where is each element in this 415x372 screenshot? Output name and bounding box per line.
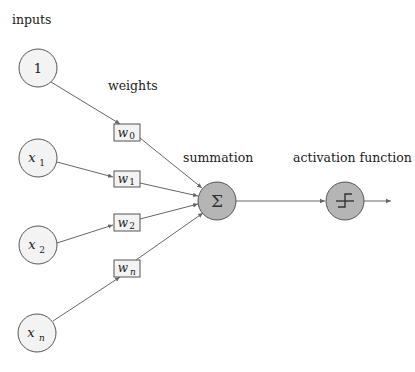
input-node-bias: 1 (19, 49, 57, 87)
weight-w0-subscript: 0 (129, 131, 135, 141)
input-x1-subscript: 1 (39, 158, 45, 168)
weight-wn-label: w (118, 261, 129, 275)
edge-x2-w2 (57, 225, 113, 243)
input-xn-subscript: n (39, 333, 45, 343)
activation-node (326, 182, 364, 220)
input-xn-label: x (27, 325, 35, 340)
perceptron-diagram: inputs weights summation activation func… (0, 0, 415, 372)
input-node-x1: x 1 (19, 139, 57, 177)
sigma-icon: Σ (211, 191, 223, 211)
input-node-x2: x 2 (19, 226, 57, 264)
weight-w1-subscript: 1 (129, 177, 135, 187)
edge-xn-wn (53, 277, 120, 321)
weight-box-w2: w 2 (114, 214, 140, 231)
edge-x1-w1 (57, 162, 113, 177)
weight-box-wn: w n (114, 260, 140, 277)
input-x2-subscript: 2 (39, 245, 45, 255)
activation-heading: activation function (293, 150, 412, 165)
weight-wn-subscript: n (130, 267, 136, 277)
weight-w2-subscript: 2 (129, 221, 135, 231)
input-x1-label: x (28, 150, 36, 165)
weights-heading: weights (108, 78, 158, 93)
weight-box-w0: w 0 (114, 124, 140, 141)
edge-w2-sum (140, 204, 198, 219)
weight-w0-label: w (118, 126, 129, 140)
summation-node: Σ (198, 182, 236, 220)
inputs-heading: inputs (12, 12, 52, 27)
edge-wn-sum (136, 213, 203, 260)
weight-w1-label: w (118, 172, 129, 186)
edge-w1-sum (140, 183, 198, 196)
input-node-xn: x n (18, 314, 56, 352)
weight-box-w1: w 1 (114, 171, 140, 187)
weight-w2-label: w (118, 216, 129, 230)
input-bias-label: 1 (34, 61, 42, 76)
summation-heading: summation (183, 150, 253, 165)
input-x2-label: x (28, 237, 36, 252)
